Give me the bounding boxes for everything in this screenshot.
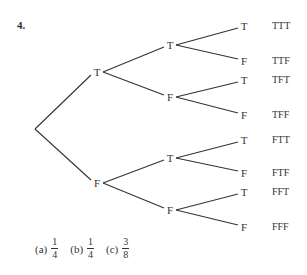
outcome-label: FTF [272, 168, 289, 178]
outcome-label: TFT [272, 75, 290, 85]
tree-branch [176, 158, 238, 171]
tree-branch [103, 160, 164, 183]
answer-label: (a) [35, 243, 47, 255]
tree-branch [176, 28, 238, 45]
tree-branch [176, 97, 238, 113]
node-leaf: F [241, 222, 247, 233]
outcome-label: TFF [272, 110, 289, 120]
answer-label: (c) [106, 243, 118, 255]
answer-fraction: 14 [87, 237, 94, 260]
node-level2: T [167, 153, 174, 164]
tree-branch [176, 142, 238, 158]
node-level2: T [167, 40, 174, 51]
node-leaf: F [241, 168, 247, 179]
tree-branch [35, 129, 91, 180]
node-level1: T [94, 67, 101, 78]
tree-branch [103, 72, 164, 95]
node-leaf: T [241, 187, 248, 198]
outcome-label: TTT [272, 21, 290, 31]
outcome-label: FFF [272, 222, 289, 232]
node-leaf: F [241, 56, 247, 67]
tree-branch [103, 47, 164, 72]
node-level2: F [167, 92, 173, 103]
tree-branch [176, 210, 238, 225]
outcome-label: FTT [272, 135, 290, 145]
answer-label: (b) [70, 243, 83, 255]
tree-diagram [0, 0, 307, 275]
outcome-label: TTF [272, 56, 290, 66]
node-level1: F [94, 178, 100, 189]
node-leaf: T [241, 135, 248, 146]
answers: (a)14(b)14(c)38 [35, 237, 137, 260]
tree-branch [103, 183, 164, 208]
outcome-label: FFT [272, 187, 289, 197]
tree-branch [176, 82, 238, 97]
tree-branch [176, 45, 238, 59]
node-leaf: T [241, 21, 248, 32]
node-leaf: T [241, 75, 248, 86]
node-leaf: F [241, 110, 247, 121]
node-level2: F [167, 205, 173, 216]
tree-branch [35, 75, 91, 129]
answer-fraction: 38 [122, 237, 129, 260]
answer-fraction: 14 [51, 237, 58, 260]
tree-branch [176, 194, 238, 210]
